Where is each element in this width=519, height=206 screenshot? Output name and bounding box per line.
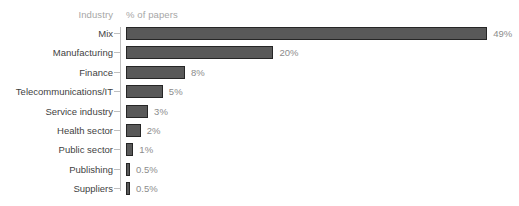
category-label: Telecommunications/IT [0,83,113,101]
value-label: 5% [169,83,183,101]
value-label: 2% [147,122,161,140]
industry-percent-of-papers-bar-chart: Industry % of papers Mix49%Manufacturing… [0,0,519,206]
chart-header-row: Industry % of papers [0,9,519,23]
category-label: Health sector [0,122,113,140]
bar-row: Mix49% [0,25,519,43]
bar [126,182,130,195]
bar [126,124,141,137]
bar [126,66,185,79]
bar-row: Finance8% [0,64,519,82]
category-label: Suppliers [0,180,113,198]
value-label: 0.5% [136,180,158,198]
category-label: Public sector [0,141,113,159]
category-label: Finance [0,64,113,82]
bar [126,46,273,59]
value-column-header: % of papers [126,9,178,20]
bar [126,143,133,156]
value-label: 3% [154,103,168,121]
axis-tick [114,91,120,92]
plot-area: Mix49%Manufacturing20%Finance8%Telecommu… [0,25,519,197]
bar [126,105,148,118]
bar-row: Telecommunications/IT5% [0,83,519,101]
axis-tick [114,33,120,34]
category-column-header: Industry [0,9,113,20]
bar-row: Publishing0.5% [0,161,519,179]
axis-tick [114,52,120,53]
axis-tick [114,188,120,189]
bar-row: Suppliers0.5% [0,180,519,198]
bar [126,27,487,40]
axis-tick [114,72,120,73]
bar-row: Public sector1% [0,141,519,159]
value-label: 8% [191,64,205,82]
category-label: Publishing [0,161,113,179]
axis-tick [114,130,120,131]
bar-row: Manufacturing20% [0,44,519,62]
bar [126,163,130,176]
value-label: 1% [139,141,153,159]
bar-row: Service industry3% [0,103,519,121]
value-label: 0.5% [136,161,158,179]
category-label: Service industry [0,103,113,121]
axis-tick [114,149,120,150]
category-label: Manufacturing [0,44,113,62]
axis-tick [114,169,120,170]
bar [126,85,163,98]
value-label: 49% [493,25,512,43]
axis-tick [114,111,120,112]
value-label: 20% [279,44,298,62]
bar-row: Health sector2% [0,122,519,140]
category-label: Mix [0,25,113,43]
